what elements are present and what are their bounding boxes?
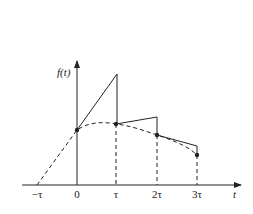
tick-label-minus-tau: −τ: [32, 188, 43, 200]
hold-segment-1: [116, 117, 157, 135]
x-axis-label: t: [233, 188, 237, 200]
tick-label-3tau: 3τ: [192, 188, 203, 200]
sample-point-2tau: [155, 133, 159, 137]
tick-label-0: 0: [74, 188, 80, 200]
tick-label-tau: τ: [114, 188, 119, 200]
sample-point-tau: [114, 122, 118, 126]
y-axis-label: f(t): [57, 66, 71, 79]
tick-label-2tau: 2τ: [152, 188, 163, 200]
diagram-svg: f(t) t −τ 0 τ 2τ 3τ: [0, 0, 253, 214]
first-order-hold-diagram: f(t) t −τ 0 τ 2τ 3τ: [0, 0, 253, 214]
sample-point-0: [75, 128, 79, 132]
continuous-signal-dashed-curve: [37, 123, 197, 185]
hold-segment-2: [157, 135, 197, 155]
hold-segment-0: [77, 74, 117, 130]
sample-point-3tau: [195, 153, 199, 157]
